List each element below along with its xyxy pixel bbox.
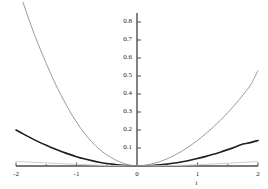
y-axis-tick-label: 0.4 [110,90,132,97]
x-axis-tick-label: 1 [188,171,208,178]
x-axis-variable-label: t [196,180,198,187]
y-axis-tick-label: 0.8 [110,18,132,25]
x-axis-tick-label: -2 [6,171,26,178]
x-axis-tick-label: 0 [127,171,147,178]
x-axis-tick-label: 2 [248,171,268,178]
y-axis-tick-label: 0.6 [110,54,132,61]
y-axis-tick-label: 0.7 [110,36,132,43]
x-axis-tick-label: -1 [67,171,87,178]
y-axis-tick-label: 0.1 [110,144,132,151]
plot-canvas: 0.10.20.30.40.50.60.70.8-2-1012t [0,0,268,189]
y-axis-tick-label: 0.5 [110,72,132,79]
y-axis-tick-label: 0.3 [110,108,132,115]
plot-graphics [0,0,268,189]
y-axis-tick-label: 0.2 [110,126,132,133]
